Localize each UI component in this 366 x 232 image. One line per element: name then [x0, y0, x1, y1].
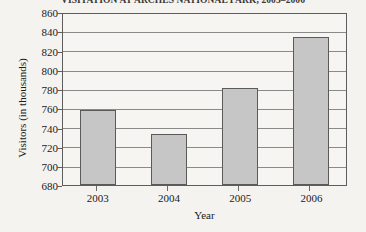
- bar-2005: [222, 88, 258, 185]
- y-axis-tick-labels: 680 700 720 740 760 780 800 820 840 860: [0, 0, 58, 232]
- bar-2003: [80, 110, 116, 185]
- y-tickmark-680: [57, 186, 62, 187]
- y-tick-680: 680: [6, 181, 58, 192]
- bar-chart-figure: VISITATION AT ARCHES NATIONAL PARK, 2003…: [0, 0, 366, 232]
- y-tick-800: 800: [6, 66, 58, 77]
- x-tickmark-2003: [96, 186, 97, 191]
- y-tick-740: 740: [6, 124, 58, 135]
- x-tickmark-2004: [167, 186, 168, 191]
- x-tick-2003: 2003: [80, 192, 116, 204]
- y-tick-820: 820: [6, 47, 58, 58]
- bar-2004: [151, 134, 187, 185]
- y-tick-860: 860: [6, 8, 58, 19]
- x-tick-2005: 2005: [222, 192, 258, 204]
- y-tick-700: 700: [6, 162, 58, 173]
- y-tick-840: 840: [6, 27, 58, 38]
- x-tickmark-2005: [238, 186, 239, 191]
- bar-series: [63, 14, 346, 185]
- plot-area: [62, 13, 347, 186]
- y-tick-760: 760: [6, 104, 58, 115]
- x-axis-label: Year: [62, 209, 347, 221]
- x-tick-2006: 2006: [293, 192, 329, 204]
- x-tickmark-2006: [309, 186, 310, 191]
- y-tick-720: 720: [6, 143, 58, 154]
- bar-2006: [293, 37, 329, 185]
- x-tick-2004: 2004: [151, 192, 187, 204]
- x-axis-tick-labels: 2003 2004 2005 2006: [62, 192, 347, 204]
- y-tick-780: 780: [6, 85, 58, 96]
